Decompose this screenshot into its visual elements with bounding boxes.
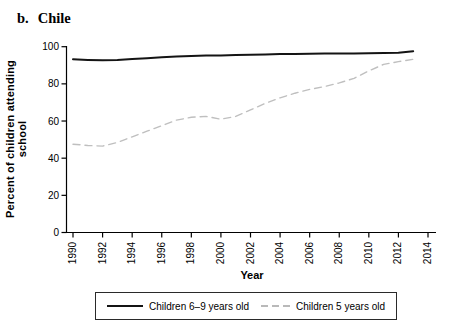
series-line-children-6-9 [73, 51, 413, 60]
y-tick-label: 80 [30, 78, 59, 89]
legend-label-children-6-9: Children 6–9 years old [149, 301, 249, 312]
y-tick-label: 0 [30, 227, 59, 238]
x-tick-label: 2008 [333, 238, 345, 268]
figure-panel-chile: b.Chile 020406080100 1990199219941996199… [0, 0, 451, 328]
series-line-children-5 [73, 59, 413, 146]
x-tick-label: 2012 [392, 238, 404, 268]
x-tick-label: 2000 [215, 238, 227, 268]
x-tick-label: 2014 [422, 238, 434, 268]
x-axis-title: Year [66, 269, 438, 281]
x-tick-label: 1996 [156, 238, 168, 268]
legend: Children 6–9 years old Children 5 years … [95, 292, 397, 320]
x-tick-label: 2004 [274, 238, 286, 268]
y-tick-label: 100 [30, 41, 59, 52]
y-tick-label: 20 [30, 190, 59, 201]
y-tick-label: 40 [30, 153, 59, 164]
x-tick-label: 1994 [126, 238, 138, 268]
legend-solid-line-swatch [107, 305, 143, 307]
y-tick-label: 60 [30, 116, 59, 127]
legend-label-children-5: Children 5 years old [296, 301, 385, 312]
x-tick-label: 2010 [363, 238, 375, 268]
x-tick-label: 2002 [245, 238, 257, 268]
legend-dashed-line-swatch [261, 305, 290, 307]
x-tick-label: 1998 [185, 238, 197, 268]
x-tick-label: 2006 [304, 238, 316, 268]
x-tick-label: 1990 [67, 238, 79, 268]
x-tick-label: 1992 [97, 238, 109, 268]
y-axis-title: Percent of children attending school [4, 44, 18, 234]
